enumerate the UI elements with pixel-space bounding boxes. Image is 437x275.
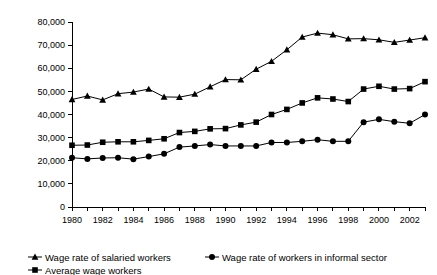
y-tick-label: 60,000	[37, 63, 65, 73]
y-axis-ticks	[68, 22, 72, 207]
circle-marker	[161, 151, 167, 157]
y-tick-label: 80,000	[37, 17, 65, 27]
square-marker	[146, 138, 152, 144]
circle-marker	[284, 139, 290, 145]
square-marker	[299, 100, 305, 106]
circle-marker	[269, 139, 275, 145]
x-tick-label: 1984	[123, 215, 143, 225]
circle-marker	[330, 138, 336, 144]
y-axis-tick-labels: 010,00020,00030,00040,00050,00060,00070,…	[37, 17, 65, 212]
chart-legend: Wage rate of salaried workersWage rate o…	[28, 252, 387, 275]
x-axis-ticks	[72, 207, 425, 211]
triangle-marker	[207, 83, 214, 89]
x-axis-tick-labels: 1980198219841986198819901992199419961998…	[62, 215, 420, 225]
circle-marker	[299, 138, 305, 144]
square-marker	[32, 267, 38, 273]
circle-marker	[345, 138, 351, 144]
square-marker	[100, 139, 106, 145]
circle-marker	[222, 143, 228, 149]
triangle-marker	[145, 86, 152, 92]
square-marker	[330, 96, 336, 102]
circle-marker	[391, 119, 397, 125]
y-tick-label: 70,000	[37, 40, 65, 50]
y-tick-label: 20,000	[37, 156, 65, 166]
legend-entry-2: Wage rate of workers in informal sector	[205, 252, 387, 263]
circle-marker	[238, 143, 244, 149]
circle-marker	[376, 116, 382, 122]
circle-marker	[130, 156, 136, 162]
series-2	[69, 79, 428, 148]
circle-marker	[253, 143, 259, 149]
square-marker	[115, 139, 121, 145]
circle-marker	[115, 155, 121, 161]
triangle-marker	[314, 30, 321, 36]
triangle-marker	[422, 34, 429, 40]
y-tick-label: 10,000	[37, 179, 65, 189]
square-marker	[253, 119, 259, 125]
square-marker	[269, 112, 275, 118]
square-marker	[345, 99, 351, 105]
square-marker	[315, 95, 321, 101]
triangle-marker	[268, 58, 275, 64]
circle-marker	[146, 154, 152, 160]
square-marker	[407, 86, 413, 92]
triangle-marker	[84, 93, 91, 99]
x-tick-label: 2002	[400, 215, 420, 225]
wage-rate-line-chart: 010,00020,00030,00040,00050,00060,00070,…	[0, 0, 437, 275]
series-3	[69, 112, 428, 163]
x-axis-group: 1980198219841986198819901992199419961998…	[62, 207, 425, 225]
x-tick-label: 1986	[154, 215, 174, 225]
series-line	[72, 82, 425, 146]
circle-marker	[100, 155, 106, 161]
square-marker	[238, 122, 244, 128]
circle-marker	[422, 112, 428, 118]
x-tick-label: 1982	[93, 215, 113, 225]
x-tick-label: 2000	[369, 215, 389, 225]
square-marker	[392, 86, 398, 92]
chart-plot-area: 010,00020,00030,00040,00050,00060,00070,…	[0, 0, 437, 275]
circle-marker	[69, 155, 75, 161]
x-tick-label: 1988	[185, 215, 205, 225]
square-marker	[192, 129, 198, 135]
circle-marker	[315, 137, 321, 143]
circle-marker	[361, 119, 367, 125]
x-tick-label: 1998	[338, 215, 358, 225]
triangle-marker	[253, 66, 260, 72]
legend-label: Wage rate of salaried workers	[45, 252, 171, 263]
x-tick-label: 1994	[277, 215, 297, 225]
square-marker	[361, 86, 367, 92]
square-marker	[131, 139, 137, 145]
legend-label: Average wage workers	[45, 265, 142, 275]
square-marker	[177, 130, 183, 136]
series-line	[72, 115, 425, 160]
circle-marker	[207, 142, 213, 148]
data-series-group	[69, 30, 429, 162]
square-marker	[161, 136, 167, 142]
x-tick-label: 1980	[62, 215, 82, 225]
circle-marker	[407, 120, 413, 126]
x-tick-label: 1990	[215, 215, 235, 225]
square-marker	[422, 79, 428, 85]
y-axis-group: 010,00020,00030,00040,00050,00060,00070,…	[37, 17, 72, 212]
legend-entry-3: Average wage workers	[28, 265, 142, 275]
y-tick-label: 50,000	[37, 87, 65, 97]
square-marker	[376, 83, 382, 89]
y-tick-label: 40,000	[37, 110, 65, 120]
legend-entry-1: Wage rate of salaried workers	[28, 252, 171, 263]
circle-marker	[176, 144, 182, 150]
triangle-marker	[191, 91, 198, 97]
square-marker	[69, 142, 75, 148]
x-tick-label: 1992	[246, 215, 266, 225]
square-marker	[207, 126, 213, 132]
circle-marker	[192, 143, 198, 149]
square-marker	[85, 142, 91, 148]
circle-marker	[84, 156, 90, 162]
x-tick-label: 1996	[308, 215, 328, 225]
series-line	[72, 33, 425, 100]
series-1	[69, 30, 429, 103]
legend-label: Wage rate of workers in informal sector	[222, 252, 387, 263]
y-tick-label: 30,000	[37, 133, 65, 143]
circle-marker	[209, 254, 215, 260]
square-marker	[223, 126, 229, 132]
y-tick-label: 0	[60, 202, 65, 212]
